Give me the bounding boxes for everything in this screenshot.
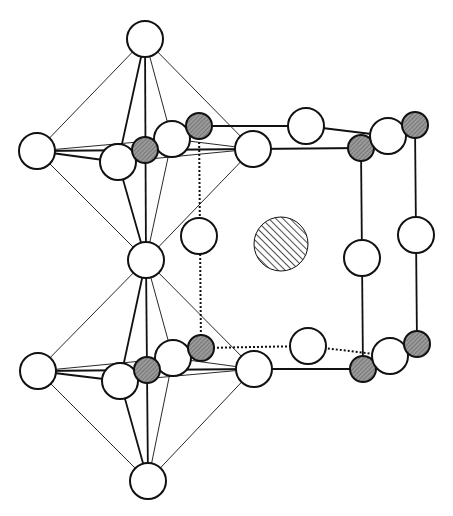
bond-thin xyxy=(37,39,145,151)
bond-thin xyxy=(148,369,254,481)
atom-open-oct1-top xyxy=(127,21,163,57)
bond-thin xyxy=(37,260,146,371)
atom-open-oct2-front xyxy=(102,363,138,399)
atom-shaded-bottom-back-b xyxy=(188,335,214,361)
atom-open-oct1-right xyxy=(235,131,271,167)
atom-open-bottom-right-o xyxy=(372,338,408,374)
atom-open-top-right-o xyxy=(370,118,406,154)
atom-shaded-top-back-b xyxy=(186,113,212,139)
atom-open-oct2-bottom xyxy=(130,463,166,499)
atom-shaded-bottom-back-right-b xyxy=(404,331,430,357)
atom-open-mid-front-right-o xyxy=(344,240,380,276)
atom-hatched-center-a xyxy=(254,217,308,271)
atom-open-oct1-back xyxy=(154,121,190,157)
atom-open-oct1-shared-bottom xyxy=(128,242,164,278)
atom-open-oct2-left xyxy=(20,353,56,389)
crystal-structure-diagram xyxy=(0,0,453,516)
atom-open-mid-left-o xyxy=(181,218,217,254)
atom-shaded-oct1-center xyxy=(132,137,158,163)
atom-layer xyxy=(19,21,434,499)
atom-open-top-edge-mid xyxy=(288,108,324,144)
atom-open-oct1-front xyxy=(100,144,136,180)
atom-open-mid-back-right-o xyxy=(398,217,434,253)
atom-shaded-top-back-right-b xyxy=(402,112,428,138)
atom-shaded-oct2-center xyxy=(134,357,160,383)
atom-open-bottom-edge-mid xyxy=(290,328,326,364)
atom-open-oct1-left xyxy=(19,133,55,169)
atom-open-oct2-right xyxy=(236,351,272,387)
